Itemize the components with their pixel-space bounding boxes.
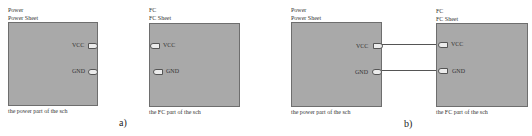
fc-vcc-port[interactable] [150,43,160,49]
panel-b-caption: b) [404,118,412,130]
fc-sheet-description: the FC part of the sch [149,109,201,116]
fc-sheet-symbol[interactable]: VCC GND [436,23,528,107]
fc-gnd-port-label: GND [166,68,179,75]
power-sheet-name: Power [291,7,306,14]
fc-vcc-port[interactable] [438,42,448,48]
fc-sheet-file: FC Sheet [149,15,171,22]
power-vcc-port[interactable] [88,43,98,49]
fc-sheet-name: FC [436,8,443,15]
power-vcc-port-label: VCC [72,42,84,49]
wire-vcc[interactable] [382,44,438,45]
fc-vcc-port-label: VCC [451,41,463,48]
wire-gnd[interactable] [382,70,438,71]
fc-vcc-port-label: VCC [163,42,175,49]
fc-sheet-name: FC [149,7,156,14]
fc-sheet-file: FC Sheet [436,16,458,23]
fc-sheet-description: the FC part of the sch [436,109,488,116]
fc-gnd-port[interactable] [153,69,163,75]
power-sheet-description: the power part of the sch [8,108,67,115]
power-sheet-symbol[interactable]: VCC GND [8,22,98,106]
power-sheet-symbol[interactable]: VCC GND [291,22,382,107]
power-sheet-file: Power Sheet [8,15,38,22]
power-sheet-description: the power part of the sch [291,109,350,116]
power-gnd-port-label: GND [72,68,85,75]
power-sheet-name: Power [8,7,23,14]
power-gnd-port[interactable] [88,69,98,75]
fc-gnd-port-label: GND [452,68,465,75]
power-gnd-port-label: GND [355,69,368,76]
fc-gnd-port[interactable] [438,68,448,74]
power-sheet-file: Power Sheet [291,15,321,22]
fc-sheet-symbol[interactable]: VCC GND [149,23,240,107]
power-vcc-port-label: VCC [356,43,368,50]
power-gnd-port[interactable] [372,69,382,75]
panel-a-caption: a) [119,117,127,129]
